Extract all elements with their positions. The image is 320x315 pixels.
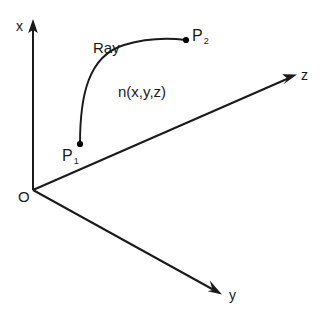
point-p2-subscript: 2 (204, 36, 209, 46)
point-p2-label: P2 (192, 28, 208, 44)
point-p2-marker (183, 37, 189, 43)
z-axis-label: z (301, 68, 308, 82)
diagram-canvas (0, 0, 320, 315)
point-p1-subscript: 1 (74, 156, 79, 166)
y-axis-line (33, 190, 213, 290)
point-p2-base: P (192, 27, 203, 44)
refractive-index-label: n(x,y,z) (118, 84, 166, 99)
point-p1-label: P1 (62, 148, 78, 164)
origin-label: O (18, 189, 30, 204)
y-axis (33, 190, 222, 295)
ray-diagram-figure: x y z O Ray n(x,y,z) P1 P2 (0, 0, 320, 315)
y-axis-label: y (229, 288, 236, 302)
x-axis-label: x (16, 19, 23, 33)
ray-label: Ray (93, 40, 120, 55)
point-p1-marker (77, 141, 83, 147)
x-axis (28, 19, 38, 190)
point-p1-base: P (62, 147, 73, 164)
